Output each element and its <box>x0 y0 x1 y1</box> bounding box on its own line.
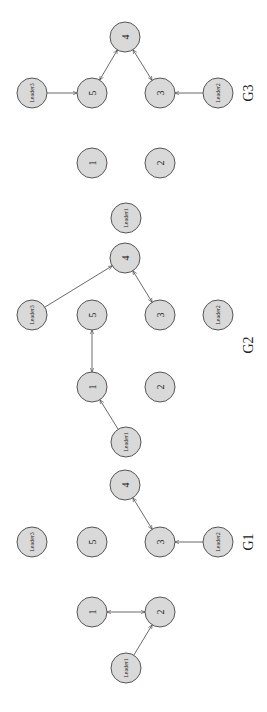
leader-node-leader1: Leader1 <box>111 427 141 457</box>
node-5: 5 <box>77 78 107 108</box>
node-label: Leader3 <box>29 532 35 552</box>
node-label: 5 <box>87 313 98 318</box>
graph-label: G3 <box>241 84 256 101</box>
leader-follower-graph-diagram: 4Leader353Leader212Leader1G34Leader353Le… <box>0 0 267 712</box>
edge-4-to-3 <box>133 50 152 81</box>
node-label: Leader1 <box>123 658 129 678</box>
leader-node-leader1: Leader1 <box>111 203 141 233</box>
node-2: 2 <box>145 372 175 402</box>
node-label: 5 <box>87 540 98 545</box>
node-label: Leader2 <box>215 305 221 325</box>
leader-node-leader1: Leader1 <box>111 653 141 683</box>
node-label: 3 <box>155 313 166 318</box>
leader-node-leader2: Leader2 <box>203 78 233 108</box>
edge-4-to-3 <box>133 271 152 302</box>
node-label: Leader3 <box>29 83 35 103</box>
node-label: 1 <box>87 385 98 390</box>
graph-label: G2 <box>241 336 256 353</box>
node-label: 4 <box>120 256 131 261</box>
node-1: 1 <box>77 597 107 627</box>
node-3: 3 <box>145 78 175 108</box>
node-label: Leader1 <box>123 432 129 452</box>
node-label: 1 <box>87 610 98 615</box>
node-label: 4 <box>120 483 131 488</box>
node-label: 1 <box>87 161 98 166</box>
edge-l3-to-4 <box>45 266 112 307</box>
node-label: Leader3 <box>29 305 35 325</box>
edge-l1-to-1 <box>100 400 118 429</box>
leader-node-leader2: Leader2 <box>203 527 233 557</box>
node-1: 1 <box>77 372 107 402</box>
node-4: 4 <box>110 243 140 273</box>
node-label: Leader1 <box>123 208 129 228</box>
node-2: 2 <box>145 148 175 178</box>
node-3: 3 <box>145 527 175 557</box>
graph-g1: 4Leader353Leader212Leader1G1 <box>17 470 256 683</box>
leader-node-leader2: Leader2 <box>203 300 233 330</box>
node-label: 4 <box>120 35 131 40</box>
edge-l1-to-2 <box>134 625 152 655</box>
node-label: 2 <box>155 610 166 615</box>
graph-g2: 4Leader353Leader212Leader1G2 <box>17 243 256 457</box>
node-3: 3 <box>145 300 175 330</box>
node-5: 5 <box>77 300 107 330</box>
node-label: 3 <box>155 540 166 545</box>
edge-4-to-5 <box>100 50 118 80</box>
graph-g3: 4Leader353Leader212Leader1G3 <box>17 22 256 233</box>
node-label: 2 <box>155 161 166 166</box>
node-5: 5 <box>77 527 107 557</box>
node-4: 4 <box>110 470 140 500</box>
leader-node-leader3: Leader3 <box>17 78 47 108</box>
node-label: Leader2 <box>215 532 221 552</box>
edge-4-to-3 <box>133 498 152 529</box>
leader-node-leader3: Leader3 <box>17 300 47 330</box>
graph-label: G1 <box>241 533 256 550</box>
node-4: 4 <box>110 22 140 52</box>
node-label: 2 <box>155 385 166 390</box>
node-label: Leader2 <box>215 83 221 103</box>
node-label: 5 <box>87 91 98 96</box>
node-2: 2 <box>145 597 175 627</box>
node-1: 1 <box>77 148 107 178</box>
leader-node-leader3: Leader3 <box>17 527 47 557</box>
node-label: 3 <box>155 91 166 96</box>
